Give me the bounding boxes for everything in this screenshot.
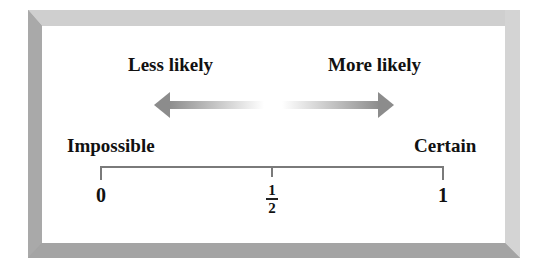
tick-half [271, 166, 273, 177]
left-arrow-icon [154, 92, 264, 118]
fraction-denominator: 2 [265, 201, 279, 215]
fraction-numerator: 1 [265, 183, 279, 197]
certain-label: Certain [414, 136, 476, 155]
right-arrow-icon [282, 92, 394, 118]
impossible-label: Impossible [67, 136, 155, 155]
more-likely-label: More likely [328, 55, 421, 74]
tick-label-one: 1 [438, 185, 448, 205]
tick-zero [100, 166, 102, 180]
less-likely-label: Less likely [128, 55, 213, 74]
tick-one [442, 166, 444, 180]
tick-label-half: 1 2 [265, 183, 279, 215]
likelihood-arrows [150, 88, 400, 124]
tick-label-zero: 0 [96, 185, 106, 205]
